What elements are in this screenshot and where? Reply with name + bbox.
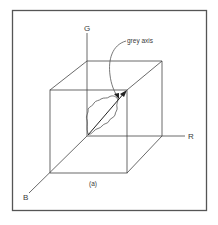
rgb-color-cube-diagram: G R B grey axis (a) xyxy=(0,0,218,225)
b-axis-label: B xyxy=(23,193,28,202)
cube-edge-top-right xyxy=(127,61,162,90)
grey-axis-label: grey axis xyxy=(127,37,154,45)
color-cluster-blob xyxy=(86,96,117,134)
grey-axis-line xyxy=(88,92,125,135)
cube-edge-bottom-right xyxy=(127,136,162,173)
figure-caption: (a) xyxy=(89,180,97,188)
r-axis-label: R xyxy=(188,132,194,141)
b-axis-line xyxy=(29,136,87,193)
cube-edge-top-left xyxy=(50,61,87,90)
g-axis-label: G xyxy=(84,24,90,33)
grey-axis xyxy=(88,90,127,135)
annotation-arrow-curve xyxy=(110,41,126,96)
